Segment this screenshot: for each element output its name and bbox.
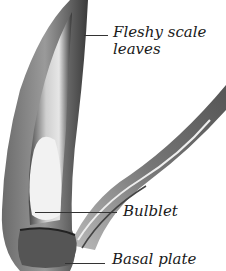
leader-line-fleshy [84, 35, 108, 36]
label-fleshy-scale-leaves: Fleshy scale leaves [113, 24, 206, 58]
label-bulblet: Bulblet [123, 203, 178, 220]
leader-line-basal [65, 263, 105, 264]
diagram-figure: Fleshy scale leaves Bulblet Basal plate [0, 0, 226, 271]
leader-line-bulblet [35, 212, 117, 213]
label-basal-plate: Basal plate [112, 251, 196, 268]
